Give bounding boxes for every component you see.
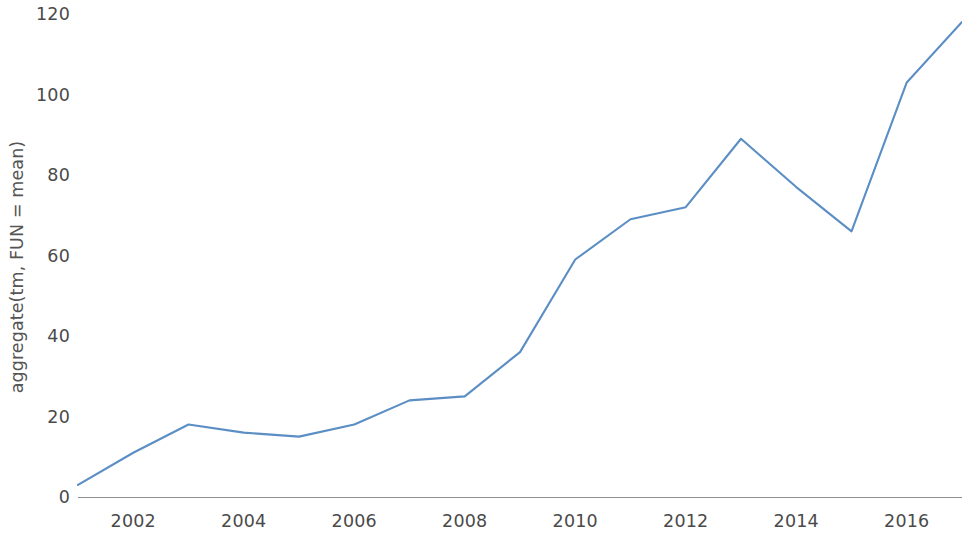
line-chart: aggregate(tm, FUN = mean) 02040608010012… [0, 0, 962, 533]
plot-area [0, 0, 962, 533]
data-series-line [78, 22, 962, 485]
